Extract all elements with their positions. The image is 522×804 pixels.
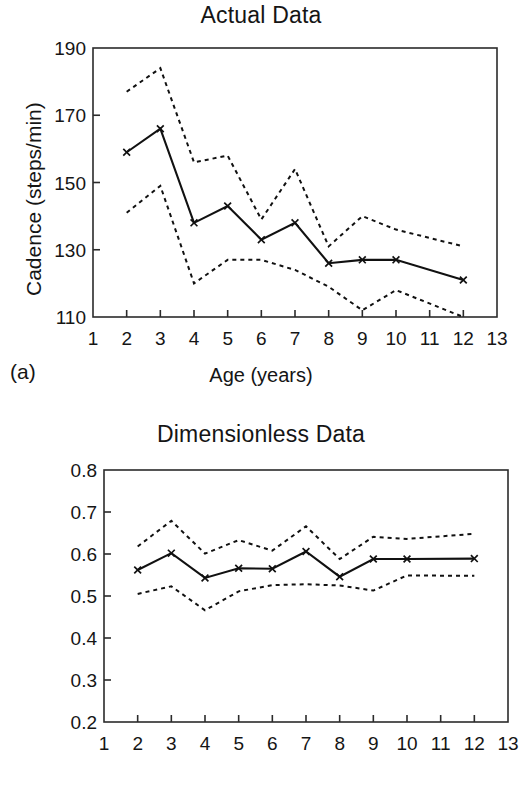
x-tick-label: 2 [132, 733, 143, 754]
x-tick-label: 12 [464, 733, 485, 754]
y-tick-label: 0.7 [71, 502, 97, 523]
x-tick-label: 4 [189, 328, 200, 349]
data-point-marker [168, 550, 175, 557]
confidence-band-line [138, 521, 475, 559]
confidence-band-line [138, 575, 475, 610]
chart-panel-dimensionless-data: Dimensionless Data Cadence Age (years) (… [0, 400, 522, 804]
x-tick-label: 7 [301, 733, 312, 754]
y-tick-label: 0.6 [71, 544, 97, 565]
confidence-band-line [127, 186, 464, 317]
y-tick-label: 130 [54, 240, 86, 261]
data-point-marker [134, 567, 141, 574]
x-tick-label: 6 [267, 733, 278, 754]
x-tick-label: 2 [121, 328, 132, 349]
x-tick-label: 12 [453, 328, 474, 349]
x-tick-label: 6 [256, 328, 267, 349]
y-tick-label: 0.8 [71, 460, 97, 481]
y-tick-label: 150 [54, 173, 86, 194]
plot-frame [93, 48, 497, 317]
data-point-marker [336, 573, 343, 580]
y-tick-label: 0.2 [71, 712, 97, 733]
data-point-marker [224, 203, 231, 210]
data-point-marker [123, 149, 130, 156]
x-tick-label: 13 [486, 328, 507, 349]
x-tick-label: 8 [334, 733, 345, 754]
y-tick-label: 0.5 [71, 586, 97, 607]
x-tick-label: 11 [431, 733, 451, 754]
y-tick-label: 190 [54, 38, 86, 59]
x-tick-label: 5 [233, 733, 244, 754]
plot-frame [104, 470, 508, 722]
x-tick-label: 11 [420, 328, 440, 349]
chart-panel-actual-data: Actual Data Cadence (steps/min) Age (yea… [0, 0, 522, 404]
y-tick-label: 0.4 [71, 628, 98, 649]
y-tick-label: 170 [54, 105, 86, 126]
data-point-marker [303, 548, 310, 555]
x-tick-label: 9 [357, 328, 368, 349]
x-tick-label: 1 [99, 733, 110, 754]
mean-data-line [138, 551, 475, 577]
y-tick-label: 110 [56, 307, 86, 328]
x-tick-label: 7 [290, 328, 301, 349]
x-tick-label: 3 [155, 328, 166, 349]
data-point-marker [292, 219, 299, 226]
x-tick-label: 4 [200, 733, 211, 754]
y-tick-label: 0.3 [71, 670, 97, 691]
x-tick-label: 9 [368, 733, 379, 754]
plot-area: 0.20.30.40.50.60.70.812345678910111213 [0, 400, 522, 804]
x-tick-label: 10 [385, 328, 406, 349]
x-tick-label: 10 [396, 733, 417, 754]
x-tick-label: 8 [323, 328, 334, 349]
x-tick-label: 3 [166, 733, 177, 754]
confidence-band-line [127, 68, 464, 246]
data-point-marker [258, 236, 265, 243]
x-tick-label: 1 [88, 328, 99, 349]
x-tick-label: 13 [497, 733, 518, 754]
x-tick-label: 5 [222, 328, 233, 349]
mean-data-line [127, 129, 464, 280]
plot-area: 11013015017019012345678910111213 [0, 0, 522, 404]
